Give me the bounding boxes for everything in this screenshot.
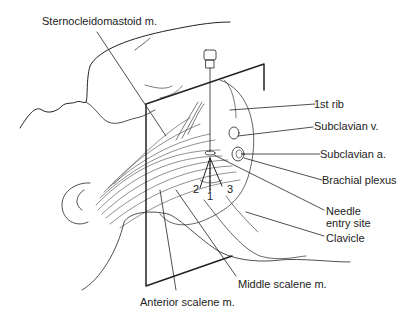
direction-number-3: 3 [227, 183, 233, 195]
label-needle-entry-line1: Needle [326, 205, 361, 217]
label-subclavian-artery: Subclavian a. [320, 148, 386, 160]
scalene-muscles [96, 118, 240, 228]
label-subclavian-vein: Subclavian v. [314, 120, 379, 132]
subclavian-vein [229, 127, 239, 139]
neck-line [86, 102, 155, 123]
label-first-rib: 1st rib [314, 98, 344, 110]
needle [204, 50, 216, 152]
direction-number-2: 2 [193, 183, 199, 195]
label-anterior-scalene: Anterior scalene m. [140, 296, 235, 308]
label-sternocleidomastoid: Sternocleidomastoid m. [42, 15, 157, 27]
label-middle-scalene: Middle scalene m. [238, 278, 327, 290]
first-rib [224, 80, 236, 118]
reference-plane [146, 64, 264, 286]
anatomical-diagram: Sternocleidomastoid m. 1st rib Subclavia… [0, 0, 408, 318]
direction-number-1: 1 [207, 190, 213, 202]
label-needle-entry-line2: entry site [326, 217, 371, 229]
ear [62, 183, 90, 224]
label-brachial-plexus: Brachial plexus [322, 174, 397, 186]
head-outline [20, 22, 230, 128]
label-clavicle: Clavicle [326, 232, 365, 244]
